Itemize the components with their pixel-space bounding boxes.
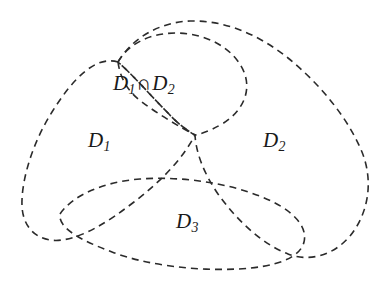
venn-diagram-figure: D1∩D2 D1 D2 D3 (0, 0, 389, 283)
label-d3: D3 (176, 211, 198, 235)
label-d1-intersect-d2-base2: D (152, 71, 167, 95)
label-d3-sub: 3 (191, 220, 198, 235)
label-d1: D1 (88, 130, 110, 154)
label-d2: D2 (263, 130, 285, 154)
label-d1-base: D (88, 128, 103, 152)
label-d1-intersect-d2-sub2: 2 (168, 82, 175, 97)
label-d1-sub: 1 (103, 139, 110, 154)
label-d3-base: D (176, 209, 191, 233)
label-d2-sub: 2 (278, 139, 285, 154)
intersection-operator-icon: ∩ (136, 71, 151, 95)
d2-boundary-curve (118, 21, 368, 257)
label-d1-intersect-d2-sub1: 1 (128, 82, 135, 97)
venn-diagram-canvas (0, 0, 389, 283)
label-d2-base: D (263, 128, 278, 152)
label-d1-intersect-d2-base: D (113, 71, 128, 95)
label-d1-intersect-d2: D1∩D2 (113, 73, 175, 97)
